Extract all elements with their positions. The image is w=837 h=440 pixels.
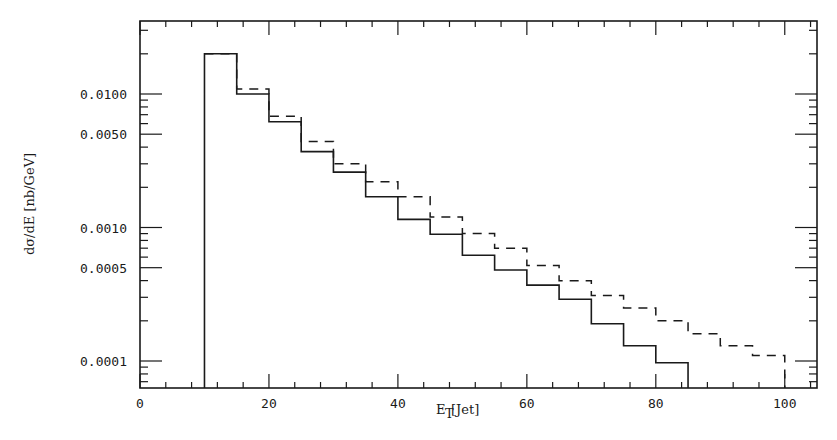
plot-border: [140, 21, 817, 388]
y-tick-label: 0.0010: [80, 221, 127, 236]
series-solid: [204, 54, 688, 388]
plot-frame: [140, 21, 817, 388]
y-axis-label: dσ/dE [nb/GeV]: [22, 153, 37, 255]
x-tick-label: 80: [648, 396, 664, 411]
x-axis-label: E T [Jet]: [436, 402, 479, 421]
x-tick-label: 0: [136, 396, 144, 411]
series-layer: [204, 54, 784, 388]
y-tick-label: 0.0050: [80, 127, 127, 142]
x-tick-label: 60: [519, 396, 535, 411]
x-tick-label: 100: [773, 396, 796, 411]
y-tick-label: 0.0100: [80, 87, 127, 102]
histogram-chart: 020406080100 0.01000.00500.00100.00050.0…: [0, 0, 837, 440]
series-dashed: [204, 54, 784, 388]
y-axis-ticks: 0.01000.00500.00100.00050.0001: [80, 30, 817, 381]
y-tick-label: 0.0005: [80, 261, 127, 276]
y-tick-label: 0.0001: [80, 354, 127, 369]
x-axis-label-rest: [Jet]: [451, 402, 479, 417]
x-tick-label: 20: [261, 396, 277, 411]
x-tick-label: 40: [390, 396, 406, 411]
